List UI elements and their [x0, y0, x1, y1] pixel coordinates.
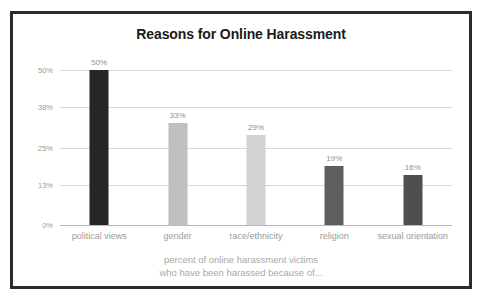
- axis-line-zero: [60, 225, 452, 226]
- bar-group: 50%political views: [60, 70, 138, 225]
- bar-group: 33%gender: [138, 70, 216, 225]
- bar[interactable]: [168, 123, 187, 225]
- bar-series: 50%political views33%gender29%race/ethni…: [60, 70, 452, 225]
- bar[interactable]: [403, 175, 422, 225]
- y-axis-tick-label: 0%: [42, 221, 53, 230]
- bar-group: 19%religion: [295, 70, 373, 225]
- y-axis-tick-label: 13%: [38, 180, 53, 189]
- caption-line-1: percent of online harassment victims: [13, 253, 469, 266]
- x-axis-category-label: gender: [164, 231, 192, 241]
- x-axis-category-label: political views: [72, 231, 127, 241]
- y-axis-tick-label: 50%: [38, 66, 53, 75]
- chart-title: Reasons for Online Harassment: [13, 26, 469, 42]
- bar-value-label: 16%: [405, 163, 421, 172]
- bar-value-label: 29%: [248, 123, 264, 132]
- x-axis-category-label: religion: [320, 231, 349, 241]
- caption-line-2: who have been harassed because of...: [13, 266, 469, 279]
- bar-group: 16%sexual orientation: [374, 70, 452, 225]
- bar[interactable]: [246, 135, 265, 225]
- y-axis-tick-label: 38%: [38, 103, 53, 112]
- bar[interactable]: [90, 70, 109, 225]
- bar-value-label: 50%: [91, 58, 107, 67]
- bar-value-label: 19%: [326, 154, 342, 163]
- y-axis-tick-label: 25%: [38, 143, 53, 152]
- x-axis-category-label: race/ethnicity: [229, 231, 282, 241]
- plot-area: 50%38%25%13%0% 50%political views33%gend…: [60, 70, 452, 225]
- bar[interactable]: [325, 166, 344, 225]
- chart-card: Reasons for Online Harassment 50%38%25%1…: [10, 11, 472, 289]
- x-axis-category-label: sexual orientation: [378, 231, 449, 241]
- chart-caption: percent of online harassment victims who…: [13, 253, 469, 279]
- bar-group: 29%race/ethnicity: [217, 70, 295, 225]
- bar-value-label: 33%: [170, 111, 186, 120]
